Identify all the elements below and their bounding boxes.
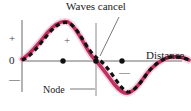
waves-cancel-leader-line <box>100 17 119 56</box>
node-point-1 <box>60 58 65 63</box>
axis-tick-negative: — <box>9 74 20 85</box>
positive-region-sign: + <box>64 35 70 46</box>
wave-interference-diagram: Waves cancel Distance Node + 0 — + — <box>0 0 191 111</box>
node-label: Node <box>43 85 65 95</box>
axis-tick-positive: + <box>9 33 15 44</box>
axis-tick-zero: 0 <box>9 55 15 66</box>
node-point-2 <box>93 58 98 63</box>
distance-axis-label: Distance <box>146 50 184 61</box>
negative-region-sign: — <box>119 67 130 78</box>
node-point-3 <box>119 58 124 63</box>
waves-cancel-label: Waves cancel <box>66 1 126 12</box>
